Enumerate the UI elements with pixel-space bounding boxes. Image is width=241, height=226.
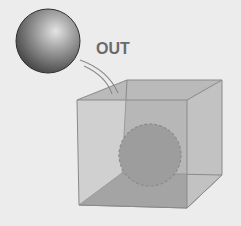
diagram-canvas: OUT <box>0 0 241 226</box>
outside-ball <box>16 9 80 73</box>
out-label: OUT <box>96 40 130 58</box>
diagram-graphic <box>0 0 241 226</box>
